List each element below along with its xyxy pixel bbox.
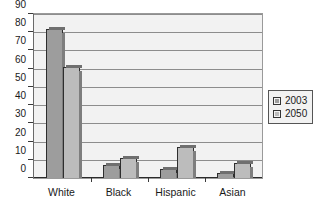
- legend-swatch-icon: [273, 110, 281, 118]
- legend-swatch-inner: [274, 111, 280, 117]
- category-band: [34, 14, 91, 178]
- chart-legend: 20032050: [268, 90, 313, 124]
- y-axis-tick-label: 50: [0, 73, 26, 83]
- y-axis-tick-mark: [28, 122, 33, 123]
- y-axis-tick-mark: [28, 177, 33, 178]
- x-axis-tick-label: Asian: [204, 186, 261, 198]
- y-axis-tick-mark: [28, 31, 33, 32]
- y-axis-tick-mark: [28, 68, 33, 69]
- bar-group: [34, 14, 91, 178]
- y-axis-tick-label: 10: [0, 146, 26, 156]
- bar-group: [91, 14, 148, 178]
- category-band: [205, 14, 262, 178]
- y-axis-tick-label: 20: [0, 128, 26, 138]
- legend-label: 2003: [285, 95, 307, 106]
- bar-group: [205, 14, 262, 178]
- bar: [120, 158, 137, 178]
- bar: [234, 163, 251, 178]
- legend-swatch-icon: [273, 97, 281, 105]
- x-axis-tick-mark: [91, 178, 92, 182]
- x-axis-tick-mark: [205, 178, 206, 182]
- x-axis-tick-label: Hispanic: [147, 186, 204, 198]
- y-axis-tick-mark: [28, 159, 33, 160]
- y-axis-tick-label: 30: [0, 109, 26, 119]
- y-axis-tick-label: 80: [0, 18, 26, 28]
- legend-item: 2050: [273, 107, 307, 120]
- bar: [177, 147, 194, 178]
- bar: [160, 169, 177, 178]
- bar: [217, 173, 234, 178]
- y-axis-tick-label: 90: [0, 0, 26, 10]
- plot-area: [33, 13, 263, 179]
- y-axis-tick-label: 40: [0, 91, 26, 101]
- x-axis-tick-mark: [148, 178, 149, 182]
- y-axis-tick-label: 70: [0, 36, 26, 46]
- y-axis-tick-label: 60: [0, 55, 26, 65]
- y-axis-tick-label: 0: [0, 164, 26, 174]
- bar-chart: WhiteBlackHispanicAsian 20032050 9080706…: [0, 0, 336, 211]
- category-band: [148, 14, 205, 178]
- y-axis-tick-mark: [28, 104, 33, 105]
- bar: [103, 165, 120, 178]
- legend-label: 2050: [285, 108, 307, 119]
- legend-swatch-inner: [274, 98, 280, 104]
- y-axis-tick-mark: [28, 141, 33, 142]
- x-axis-tick-labels: WhiteBlackHispanicAsian: [33, 186, 263, 202]
- x-axis-tick-label: White: [33, 186, 90, 198]
- x-axis-tick-label: Black: [90, 186, 147, 198]
- y-axis-tick-mark: [28, 13, 33, 14]
- bar: [46, 29, 63, 178]
- y-axis-tick-mark: [28, 86, 33, 87]
- plot-inner: [34, 14, 262, 178]
- category-band: [91, 14, 148, 178]
- y-axis-tick-mark: [28, 49, 33, 50]
- bar-group: [148, 14, 205, 178]
- legend-item: 2003: [273, 94, 307, 107]
- bar: [63, 67, 80, 178]
